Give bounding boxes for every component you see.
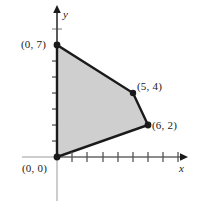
vertex-label-0-0: (0, 0) [22, 163, 47, 174]
vertex-label-0-7: (0, 7) [21, 39, 46, 50]
vertex-label-5-4: (5, 4) [137, 81, 162, 92]
y-axis-label: y [63, 9, 68, 20]
x-axis-label: x [179, 163, 184, 174]
vertex-dot-5-4 [130, 90, 136, 96]
vertex-dot-6-2 [145, 122, 152, 129]
vertex-dot-0-7 [54, 42, 61, 49]
y-axis-arrow-icon [53, 5, 61, 13]
coordinate-plane-figure: y x (0, 7) (0, 0) (5, 4) (6, 2) [0, 0, 200, 208]
plot-canvas [0, 0, 200, 208]
feasible-region-polygon [57, 45, 148, 157]
vertex-label-6-2: (6, 2) [152, 120, 177, 131]
vertex-dot-origin [54, 154, 61, 161]
